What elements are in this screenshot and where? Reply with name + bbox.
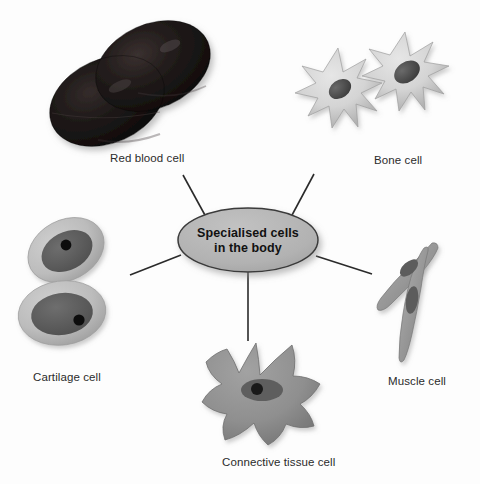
connector-to-cartilage-cell [130,255,181,275]
connector-to-bone-cell [291,174,314,217]
center-node-text: Specialised cells in the body [173,226,323,256]
connector-to-red-blood-cell [183,175,206,217]
red-blood-cell-graphic [35,3,225,164]
cartilage-cell-lower-nucleolus [73,314,84,325]
cartilage-cell-upper-nucleolus [61,240,72,251]
label-muscle-cell: Muscle cell [388,375,446,387]
label-connective-tissue-cell: Connective tissue cell [222,456,335,468]
label-bone-cell: Bone cell [374,154,422,166]
center-node-line-1: Specialised cells [173,226,323,241]
cell-diagram-canvas: Specialised cells in the body Red blood … [0,0,480,484]
label-cartilage-cell: Cartilage cell [33,371,101,383]
label-red-blood-cell: Red blood cell [110,152,184,164]
connective-tissue-cell-graphic [202,343,320,445]
connector-to-muscle-cell [316,256,372,274]
cartilage-cell-graphic [14,205,115,351]
muscle-cell-graphic [377,243,438,362]
connective-tissue-cell-nucleolus [251,383,263,395]
center-node-line-2: in the body [173,241,323,256]
bone-cell-graphic [295,32,449,128]
